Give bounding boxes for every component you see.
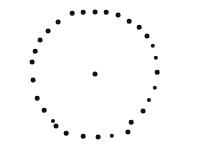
ring-data-point [93, 10, 98, 15]
ring-data-point [56, 20, 61, 25]
ring-data-point [54, 124, 59, 129]
ring-data-point [141, 109, 146, 114]
ring-data-point [151, 44, 155, 48]
ring-data-point [96, 135, 101, 140]
ring-data-point [81, 10, 86, 15]
ring-data-point [38, 38, 43, 43]
ring-data-point [154, 56, 158, 60]
ring-data-point [81, 134, 86, 139]
ring-data-point [33, 49, 38, 54]
ring-data-point [51, 119, 55, 123]
ring-data-point [110, 134, 114, 138]
ring-data-point [137, 25, 142, 30]
ring-data-point [127, 19, 132, 24]
ring-data-point [145, 34, 150, 39]
scatter-plot-figure [0, 0, 208, 161]
ring-data-point [155, 70, 160, 75]
ring-data-point [46, 29, 51, 34]
ring-data-point [30, 60, 35, 65]
ring-data-point [64, 131, 69, 136]
ring-data-point [129, 120, 134, 125]
ring-data-point [125, 129, 130, 134]
ring-data-point [35, 96, 40, 101]
ring-data-point [70, 11, 75, 16]
ring-data-point [153, 86, 157, 90]
plot-area [0, 0, 208, 161]
center-data-point [93, 72, 98, 77]
ring-data-point [147, 98, 151, 102]
ring-data-point [116, 13, 121, 18]
ring-data-point [31, 78, 36, 83]
ring-data-point [104, 10, 109, 15]
ring-data-point [42, 108, 47, 113]
